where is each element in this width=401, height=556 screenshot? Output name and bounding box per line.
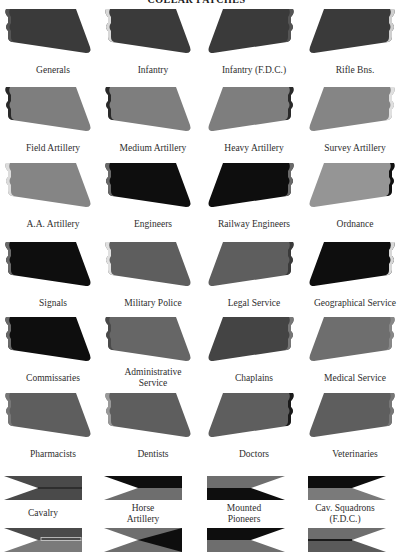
pennant-icon [306, 528, 386, 552]
pennant-icon [306, 476, 386, 500]
patch-label: Railway Engineers [199, 219, 309, 230]
pennant-icon [104, 528, 184, 552]
pennant-icon [4, 476, 84, 500]
collar-patch-icon [104, 317, 194, 363]
collar-patch-icon [306, 317, 396, 363]
patch-label: Commissaries [0, 373, 108, 384]
patch-label: Field Artillery [0, 143, 108, 154]
collar-patch-icon [104, 242, 194, 288]
patch-label: Rifle Bns. [300, 65, 401, 76]
collar-patch-icon [306, 163, 396, 209]
pennant-label: MountedPioneers [189, 503, 299, 525]
patch-label: Engineers [98, 219, 208, 230]
patch-label: AdministrativeService [98, 367, 208, 389]
collar-patch-icon [306, 393, 396, 439]
collar-patch-icon [4, 87, 94, 133]
pennant-icon [4, 528, 84, 552]
patch-label: Infantry [98, 65, 208, 76]
pennant-label: HorseArtillery [88, 503, 198, 525]
collar-patch-icon [205, 242, 295, 288]
collar-patch-icon [205, 9, 295, 55]
collar-patch-icon [205, 393, 295, 439]
patch-label: Heavy Artillery [199, 143, 309, 154]
collar-patch-icon [4, 317, 94, 363]
patch-label: Ordnance [300, 219, 401, 230]
patch-label: Survey Artillery [300, 143, 401, 154]
pennant-icon [205, 476, 285, 500]
collar-patch-icon [104, 393, 194, 439]
patch-label: Signals [0, 298, 108, 309]
patch-label: Infantry (F.D.C.) [199, 65, 309, 76]
collar-patch-icon [104, 163, 194, 209]
collar-patch-icon [104, 9, 194, 55]
patch-label: Dentists [98, 449, 208, 460]
collar-patch-icon [205, 317, 295, 363]
collar-patch-icon [4, 9, 94, 55]
collar-patch-icon [4, 163, 94, 209]
patch-label: Medical Service [300, 373, 401, 384]
page-title: COLLAR PATCHES [0, 0, 393, 5]
patch-label: Doctors [199, 449, 309, 460]
collar-patch-icon [205, 87, 295, 133]
patch-label: A.A. Artillery [0, 219, 108, 230]
collar-patch-icon [205, 163, 295, 209]
collar-patch-icon [306, 9, 396, 55]
patch-label: Generals [0, 65, 108, 76]
pennant-icon [205, 528, 285, 552]
pennant-label: Cavalry [0, 508, 98, 519]
patch-label: Chaplains [199, 373, 309, 384]
collar-patch-icon [104, 87, 194, 133]
collar-patch-icon [4, 242, 94, 288]
collar-patch-icon [4, 393, 94, 439]
patch-label: Geographical Service [300, 298, 401, 309]
pennant-label: Cav. Squadrons(F.D.C.) [290, 503, 400, 525]
patch-label: Pharmacists [0, 449, 108, 460]
collar-patch-icon [306, 242, 396, 288]
pennant-icon [104, 476, 184, 500]
patch-label: Medium Artillery [98, 143, 208, 154]
collar-patch-icon [306, 87, 396, 133]
patch-label: Veterinaries [300, 449, 401, 460]
patch-label: Legal Service [199, 298, 309, 309]
patch-label: Military Police [98, 298, 208, 309]
